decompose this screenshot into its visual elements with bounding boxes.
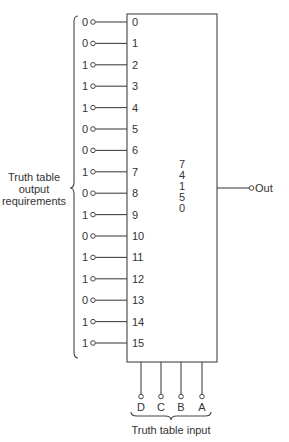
data-input-0: 00 [82,16,138,28]
output-requirements-label-line-1: Truth table [8,171,60,183]
multiplexer-diagram: 00011213140506170819010111112013114115 7… [0,0,289,442]
input-terminal-icon [91,277,96,282]
input-value: 0 [82,230,88,242]
input-pin-number: 8 [132,187,138,199]
input-value: 0 [82,187,88,199]
data-input-3: 13 [82,80,138,92]
select-input-d: D [137,362,145,413]
input-terminal-icon [91,84,96,89]
input-pin-number: 7 [132,166,138,178]
data-input-7: 17 [82,166,138,178]
select-terminal-icon [139,394,144,399]
input-terminal-icon [91,341,96,346]
input-pin-number: 15 [132,337,144,349]
input-pin-number: 4 [132,102,138,114]
data-inputs: 00011213140506170819010111112013114115 [82,16,144,349]
bottom-brace [131,412,211,420]
data-input-14: 114 [82,316,144,328]
input-terminal-icon [91,212,96,217]
data-input-12: 112 [82,273,144,285]
data-input-1: 01 [82,37,138,49]
input-value: 1 [82,59,88,71]
select-terminal-icon [179,394,184,399]
select-terminal-icon [200,394,205,399]
input-pin-number: 10 [132,230,144,242]
input-value: 1 [82,209,88,221]
input-value: 1 [82,337,88,349]
data-input-6: 06 [82,144,138,156]
input-pin-number: 6 [132,144,138,156]
mux-chip-body [127,14,217,362]
select-input-b: B [177,362,184,413]
input-value: 0 [82,16,88,28]
data-input-11: 111 [82,251,143,263]
data-input-2: 12 [82,59,138,71]
input-pin-number: 12 [132,273,144,285]
select-input-c: C [157,362,165,413]
input-terminal-icon [91,127,96,132]
input-terminal-icon [91,41,96,46]
input-value: 1 [82,251,88,263]
input-pin-number: 14 [132,316,144,328]
select-label: B [177,401,184,413]
data-input-10: 010 [82,230,144,242]
input-value: 1 [82,273,88,285]
left-brace [70,16,78,358]
select-label: D [137,401,145,413]
input-value: 1 [82,316,88,328]
input-terminal-icon [91,105,96,110]
output-label: Out [255,182,273,194]
input-pin-number: 11 [132,251,143,263]
select-inputs: DCBA [137,362,206,413]
input-terminal-icon [91,148,96,153]
input-value: 1 [82,166,88,178]
input-pin-number: 9 [132,209,138,221]
input-terminal-icon [91,63,96,68]
input-value: 0 [82,294,88,306]
input-pin-number: 13 [132,294,144,306]
chip-label-char: 0 [179,202,185,214]
input-terminal-icon [91,20,96,25]
select-label: C [157,401,165,413]
truth-table-input-label: Truth table input [131,424,210,436]
input-pin-number: 5 [132,123,138,135]
input-terminal-icon [91,234,96,239]
chip-part-number: 74150 [179,158,185,214]
output-requirements-label-line-3: requirements [2,195,67,207]
data-input-9: 19 [82,209,138,221]
input-pin-number: 3 [132,80,138,92]
data-input-15: 115 [82,337,144,349]
input-terminal-icon [91,319,96,324]
input-pin-number: 2 [132,59,138,71]
input-value: 1 [82,102,88,114]
data-input-5: 05 [82,123,138,135]
input-terminal-icon [91,191,96,196]
input-pin-number: 1 [132,37,138,49]
data-input-8: 08 [82,187,138,199]
data-input-13: 013 [82,294,144,306]
output-requirements-label-line-2: output [19,183,50,195]
input-terminal-icon [91,255,96,260]
select-terminal-icon [159,394,164,399]
input-value: 0 [82,144,88,156]
input-terminal-icon [91,170,96,175]
input-value: 1 [82,80,88,92]
data-input-4: 14 [82,102,138,114]
select-input-a: A [198,362,206,413]
output-terminal-icon [249,186,254,191]
input-pin-number: 0 [132,16,138,28]
select-label: A [198,401,206,413]
input-value: 0 [82,123,88,135]
input-value: 0 [82,37,88,49]
input-terminal-icon [91,298,96,303]
